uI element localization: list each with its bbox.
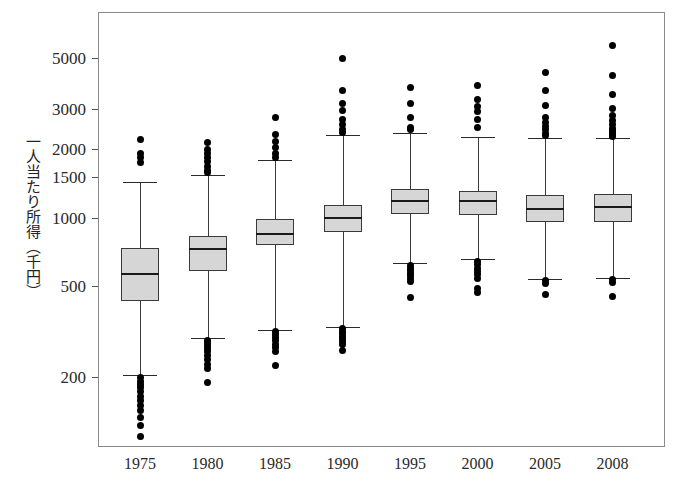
y-axis-tick-mark bbox=[92, 58, 98, 59]
x-axis-tick-label: 1985 bbox=[259, 455, 291, 473]
y-axis-tick-label: 1000 bbox=[52, 209, 86, 226]
y-axis-tick-labels: 50003000200015001000500200 bbox=[28, 0, 86, 482]
y-axis-tick-mark bbox=[92, 218, 98, 219]
x-axis-tick-label: 1990 bbox=[327, 455, 359, 473]
y-axis-tick-label: 2000 bbox=[52, 140, 86, 157]
x-axis-tick-label: 2005 bbox=[529, 455, 561, 473]
y-axis-tick-mark bbox=[92, 109, 98, 110]
y-axis-tick-label: 5000 bbox=[52, 50, 86, 67]
x-axis-tick-label: 2000 bbox=[462, 455, 494, 473]
y-axis-tick-label: 200 bbox=[61, 369, 87, 386]
boxplot-figure: 一人当たり所得（千円） 50003000200015001000500200 1… bbox=[0, 0, 674, 482]
y-axis-tick-mark bbox=[92, 149, 98, 150]
y-axis-tick-mark bbox=[92, 286, 98, 287]
x-axis-tick-label: 1980 bbox=[192, 455, 224, 473]
y-axis-tick-label: 500 bbox=[61, 278, 87, 295]
y-axis-tick-label: 3000 bbox=[52, 100, 86, 117]
y-axis-tick-mark bbox=[92, 377, 98, 378]
y-axis-tick-label: 1500 bbox=[52, 169, 86, 186]
x-axis-tick-label: 2008 bbox=[597, 455, 629, 473]
x-axis-tick-label: 1975 bbox=[124, 455, 156, 473]
plot-frame bbox=[98, 12, 665, 447]
x-axis-tick-label: 1995 bbox=[394, 455, 426, 473]
y-axis-tick-mark bbox=[92, 177, 98, 178]
